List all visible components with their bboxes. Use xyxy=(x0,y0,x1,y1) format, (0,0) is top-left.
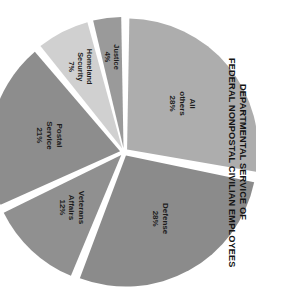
slice-name-text: others xyxy=(178,91,187,116)
slice-name-text: Postal xyxy=(55,123,64,147)
slice-value-text: 4% xyxy=(103,52,112,63)
chart-title-line-1: DEPARTMENTAL SERVICE OF xyxy=(237,58,248,246)
pie-plot-area: Allothers28%Defense28%VeteransAffairs12%… xyxy=(0,16,256,288)
slice-value-text: 28% xyxy=(151,211,160,227)
slice-name-text: Affairs xyxy=(67,195,76,221)
slice-value-text: 28% xyxy=(168,96,177,112)
pie-svg: Allothers28%Defense28%VeteransAffairs12%… xyxy=(0,16,256,288)
slice-name-text: All xyxy=(188,98,197,108)
chart-title-line-2: FEDERAL NONPOSTAL CIVILIAN EMPLOYEES xyxy=(226,58,237,246)
pie-slice-group xyxy=(0,17,256,286)
slice-name-text: Security xyxy=(76,52,85,82)
pie-chart-figure: Allothers28%Defense28%VeteransAffairs12%… xyxy=(0,0,283,304)
chart-title: DEPARTMENTAL SERVICE OF FEDERAL NONPOSTA… xyxy=(226,58,249,246)
slice-name-text: Defense xyxy=(161,203,170,235)
slice-name-text: Veterans xyxy=(77,191,86,225)
slice-value-text: 12% xyxy=(58,199,67,215)
slice-name-text: Service xyxy=(45,121,54,150)
slice-value-text: 21% xyxy=(35,127,44,143)
slice-name-text: Homeland xyxy=(85,49,94,85)
slice-name-text: Justice xyxy=(112,44,121,69)
slice-value-text: 7% xyxy=(67,61,76,72)
